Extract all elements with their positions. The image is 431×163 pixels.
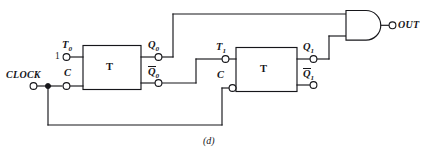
flipflop-0-type-label: T: [106, 62, 113, 73]
junction-clock-dot: [45, 83, 50, 88]
flipflop-1-type-label: T: [260, 64, 267, 75]
terminal-clock: [30, 83, 37, 90]
clock-input-label: CLOCK: [6, 70, 41, 80]
constant-one-label: 1: [55, 52, 60, 62]
t1-subscript: 1: [222, 47, 226, 55]
terminal-c1: [229, 85, 236, 92]
q1-subscript: 1: [311, 47, 315, 55]
output-label: OUT: [398, 20, 419, 30]
terminal-out: [389, 22, 396, 29]
terminal-t1: [222, 56, 229, 63]
circuit-schematic-svg: [0, 0, 431, 163]
q1bar-subscript: 1: [311, 74, 315, 82]
terminal-q0bar: [155, 80, 162, 87]
t0-subscript: 0: [68, 45, 72, 53]
terminal-c0: [63, 83, 70, 90]
flipflop-1-t-input-label: T1: [216, 42, 226, 55]
and-gate-body: [346, 11, 381, 41]
terminal-q1bar: [310, 82, 317, 89]
terminal-q0: [155, 54, 162, 61]
q1-letter: Q: [303, 41, 311, 52]
flipflop-0-qbar-output-label: Q0: [148, 66, 159, 80]
q0bar-subscript: 0: [156, 72, 160, 80]
terminal-t0: [63, 54, 70, 61]
flipflop-0-c-input-label: C: [64, 68, 71, 79]
q0-subscript: 0: [156, 45, 160, 53]
flipflop-1-qbar-output-label: Q1: [303, 68, 314, 82]
terminal-q1: [310, 56, 317, 63]
figure-caption: (d): [203, 136, 215, 146]
q0bar-letter: Q: [148, 66, 156, 78]
logic-circuit-figure: CLOCK 1 T0 C Q0 Q0 T1 C Q1 Q1 T T OUT (d…: [0, 0, 431, 163]
q0-letter: Q: [148, 39, 156, 50]
q1bar-letter: Q: [303, 68, 311, 80]
flipflop-0-t-input-label: T0: [62, 40, 72, 53]
flipflop-0-q-output-label: Q0: [148, 40, 159, 53]
flipflop-1-q-output-label: Q1: [303, 42, 314, 55]
flipflop-1-c-input-label: C: [217, 70, 224, 81]
